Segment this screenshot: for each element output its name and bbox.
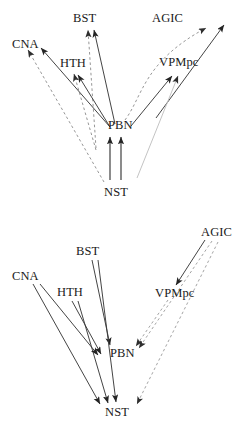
node-label-vpmpc-top: VPMpc	[159, 56, 198, 69]
edge-nst-vpmpc	[137, 76, 178, 178]
ascending-edges-canvas	[0, 0, 249, 212]
node-label-cna-top: CNA	[12, 38, 39, 51]
edge-agic-nst	[137, 242, 218, 404]
node-label-hth-top: HTH	[60, 57, 86, 70]
edge-pbn-bst	[94, 30, 115, 124]
node-label-vpmpc-bottom: VPMpc	[155, 287, 194, 300]
edge-nst-hth	[74, 74, 96, 150]
edge-pbn-vpmpc	[131, 76, 172, 126]
edge-nst-agic	[156, 25, 224, 118]
node-label-nst-top: NST	[104, 186, 128, 199]
descending-projections-diagram: AGIC BST CNA HTH VPMpc PBN NST	[0, 212, 249, 437]
descending-edges-canvas	[0, 212, 249, 437]
edge-bst-nst	[98, 260, 116, 402]
node-label-hth-bottom: HTH	[57, 286, 83, 299]
edge-nst-bst	[88, 30, 96, 148]
node-label-cna-bottom: CNA	[12, 270, 39, 283]
edge-hth-pbn	[72, 301, 101, 354]
edge-pbn-hth	[78, 75, 110, 127]
edge-vpmpc-pbn	[136, 300, 168, 346]
node-label-agic-bottom: AGIC	[201, 226, 232, 239]
figure-root: CNA BST HTH AGIC VPMpc PBN NST	[0, 0, 249, 437]
node-label-pbn-bottom: PBN	[110, 347, 135, 360]
edge-agic-vpmpc	[176, 240, 205, 285]
node-label-nst-bottom: NST	[105, 406, 129, 419]
node-label-bst-bottom: BST	[76, 245, 99, 258]
node-label-agic-top: AGIC	[152, 12, 183, 25]
node-label-bst-top: BST	[73, 12, 96, 25]
edge-cna-nst	[33, 284, 100, 404]
ascending-projections-diagram: CNA BST HTH AGIC VPMpc PBN NST	[0, 0, 249, 212]
node-label-pbn-top: PBN	[108, 119, 133, 132]
